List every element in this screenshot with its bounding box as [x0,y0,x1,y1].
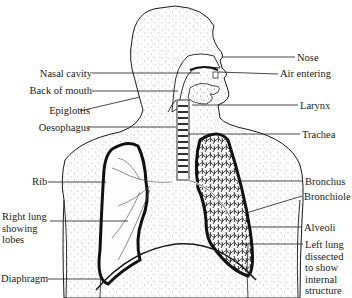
label-oesophagus: Oesophagus [4,122,90,133]
trachea-shape [177,100,189,180]
label-line: internal [305,274,352,286]
label-epiglottis: Epiglottis [4,105,90,116]
label-rib: Rib [32,176,47,187]
label-nose: Nose [297,52,319,63]
label-line: showing [2,223,52,235]
label-right-lung: Right lung showing lobes [2,211,52,246]
label-bronchus: Bronchus [305,176,345,187]
label-diaphragm: Diaphragm [1,273,48,284]
label-back-of-mouth: Back of mouth [4,85,92,96]
label-air-entering: Air entering [280,68,331,79]
label-line: lobes [2,234,52,246]
label-line: dissected [305,251,352,263]
label-bronchiole: Bronchiole [304,191,351,202]
label-nasal-cavity: Nasal cavity [4,68,92,79]
respiratory-system-diagram [0,0,352,298]
label-line: Left lung [305,239,352,251]
label-line: to show [305,262,352,274]
label-left-lung: Left lung dissected to show internal str… [305,239,352,297]
label-alveoli: Alveoli [304,222,336,233]
label-larynx: Larynx [300,100,330,111]
label-trachea: Trachea [302,129,335,140]
label-line: Right lung [2,211,52,223]
label-line: structure [305,285,352,297]
